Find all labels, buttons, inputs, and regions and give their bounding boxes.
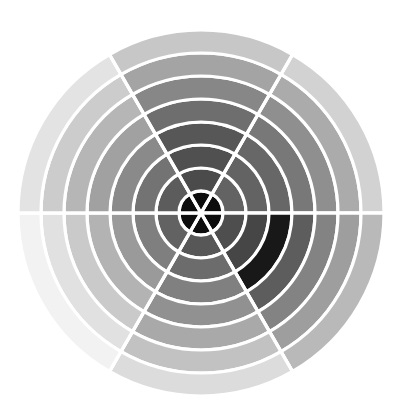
- polar-heatmap-svg: [0, 0, 402, 411]
- polar-heatmap-chart: [0, 0, 402, 411]
